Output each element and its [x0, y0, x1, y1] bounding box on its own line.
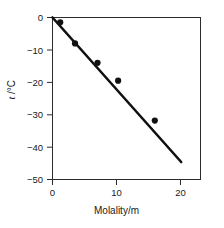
- y-axis-title-unit: /°C: [6, 80, 17, 94]
- data-point: [115, 78, 121, 84]
- y-tick-label-minus50: −50: [27, 174, 43, 185]
- freezing-point-scatter-chart: 0 10 20 0 −10 −20 −30 −40 −50 t /°C Mola…: [0, 0, 224, 228]
- x-tick-label-20: 20: [175, 187, 186, 198]
- data-point: [57, 19, 63, 25]
- data-point: [94, 60, 100, 66]
- x-tick-label-0: 0: [50, 187, 55, 198]
- y-tick-label-minus30: −30: [27, 109, 43, 120]
- y-axis-title: t /°C: [6, 80, 17, 99]
- data-point: [72, 40, 78, 46]
- y-tick-label-minus40: −40: [27, 142, 43, 153]
- chart-figure: 0 10 20 0 −10 −20 −30 −40 −50 t /°C Mola…: [0, 0, 224, 228]
- y-tick-label-0: 0: [38, 12, 43, 23]
- x-axis-title: Molality/m: [94, 205, 139, 216]
- y-tick-label-minus20: −20: [27, 77, 43, 88]
- data-point: [152, 117, 158, 123]
- y-tick-label-minus10: −10: [27, 45, 43, 56]
- x-tick-label-10: 10: [111, 187, 122, 198]
